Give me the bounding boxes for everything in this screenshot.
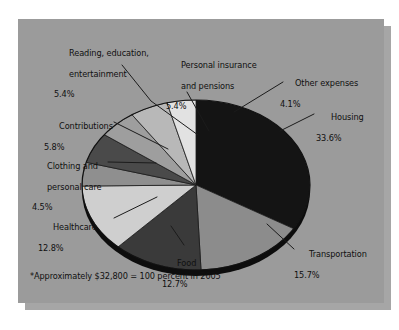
slice-label-personal-line2: and pensions [181, 81, 234, 91]
slice-label-contributions: Contributions 5.8% [44, 111, 113, 172]
slice-label-contributions-name: Contributions [59, 121, 113, 131]
slice-label-personal-insurance: Personal insurance and pensions 5.4% [166, 50, 257, 132]
slice-label-other-name: Other expenses [295, 78, 358, 88]
slice-label-reading-line2: entertainment [69, 69, 127, 79]
slice-label-contributions-pct: 5.8% [44, 142, 113, 152]
slice-label-reading: Reading, education, entertainment 5.4% [54, 38, 149, 120]
slice-label-transport-pct: 15.7% [294, 270, 367, 280]
slice-label-personal-pct: 5.4% [166, 101, 257, 111]
slice-label-food-name: Food [177, 258, 196, 268]
chart-footnote: *Approximately $32,800 = 100 percent in … [30, 271, 221, 281]
slice-label-healthcare-pct: 12.8% [38, 243, 97, 253]
figure-content: Reading, education, entertainment 5.4% P… [18, 19, 384, 303]
pie-chart-figure-panel: Reading, education, entertainment 5.4% P… [18, 19, 384, 303]
slice-label-reading-pct: 5.4% [54, 89, 149, 99]
slice-label-transport-name: Transportation [309, 249, 367, 259]
slice-label-housing: Housing 33.6% [316, 102, 364, 163]
slice-label-housing-name: Housing [331, 112, 364, 122]
slice-label-clothing-line2: personal care [47, 182, 101, 192]
slice-label-transportation: Transportation 15.7% [294, 239, 367, 300]
slice-label-housing-pct: 33.6% [316, 133, 364, 143]
slice-label-clothing-pct: 4.5% [32, 202, 101, 212]
slice-label-reading-line1: Reading, education, [69, 48, 149, 58]
slice-label-personal-line1: Personal insurance [181, 60, 257, 70]
